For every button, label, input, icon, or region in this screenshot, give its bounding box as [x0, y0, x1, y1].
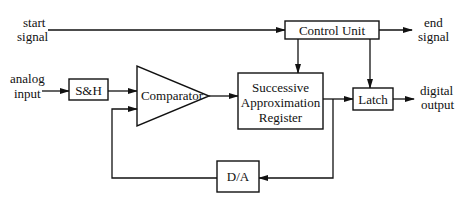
sar-label-2: Approximation [241, 95, 321, 110]
dac-block: D/A [217, 161, 259, 192]
sar-label-3: Register [259, 110, 303, 125]
digital-output-label-1: digital [420, 83, 454, 98]
comparator-block: Comparator [137, 66, 209, 126]
sar-block: Successive Approximation Register [238, 73, 323, 129]
start-signal-label-2: signal [17, 29, 48, 44]
start-signal-label-1: start [23, 15, 46, 30]
sample-hold-label: S&H [75, 83, 102, 98]
digital-output-label-2: output [421, 97, 455, 112]
analog-input-label-1: analog [10, 71, 45, 86]
end-signal-label-1: end [424, 15, 443, 30]
sar-label-1: Successive [252, 80, 309, 95]
control-unit-label: Control Unit [299, 23, 365, 38]
comparator-label: Comparator [141, 88, 204, 103]
control-unit-block: Control Unit [285, 21, 379, 39]
dac-label: D/A [227, 169, 250, 184]
latch-label: Latch [358, 92, 388, 107]
latch-block: Latch [353, 88, 393, 110]
end-signal-label-2: signal [418, 29, 449, 44]
sar-adc-diagram: start signal Control Unit end signal ana… [0, 0, 465, 202]
analog-input-label-2: input [14, 86, 41, 101]
dac-to-comparator-wire [112, 109, 217, 178]
sample-hold-block: S&H [69, 79, 108, 100]
